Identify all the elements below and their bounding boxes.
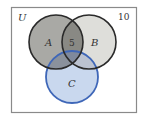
outside-count: 10 <box>118 12 130 22</box>
set-b-label: B <box>90 37 98 48</box>
universe-label: U <box>18 12 27 23</box>
region-ab-count: 5 <box>69 38 75 48</box>
set-c-label: C <box>68 78 76 89</box>
venn-svg: U 10 A 5 B C <box>0 0 145 120</box>
set-a-label: A <box>44 37 52 48</box>
venn-diagram: U 10 A 5 B C <box>0 0 145 120</box>
